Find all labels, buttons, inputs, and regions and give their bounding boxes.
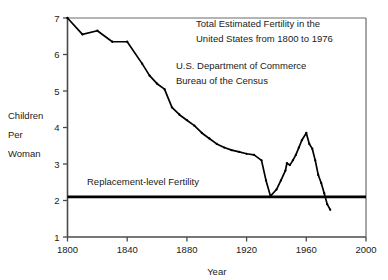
x-tick-label: 2000 xyxy=(355,244,376,255)
chart-canvas: 180018401880192019602000 1234567 Total E… xyxy=(0,0,388,280)
data-point xyxy=(280,179,282,181)
data-point xyxy=(314,159,316,161)
data-point xyxy=(320,182,322,184)
data-point xyxy=(223,146,225,148)
data-point xyxy=(245,153,247,155)
data-point xyxy=(163,88,165,90)
data-point xyxy=(326,203,328,205)
y-tick-label: 1 xyxy=(54,232,59,243)
x-tick-label: 1800 xyxy=(57,244,78,255)
data-point xyxy=(186,119,188,121)
y-tick-label: 4 xyxy=(54,122,59,133)
data-point xyxy=(275,188,277,190)
chart-source-line: U.S. Department of Commerce xyxy=(176,60,306,71)
data-point xyxy=(260,159,262,161)
data-point xyxy=(253,154,255,156)
data-point xyxy=(201,132,203,134)
data-point xyxy=(269,195,271,197)
y-axis-title-line: Woman xyxy=(8,148,41,159)
data-point xyxy=(231,149,233,151)
data-point xyxy=(111,41,113,43)
data-point xyxy=(308,143,310,145)
replacement-level-label: Replacement-level Fertility xyxy=(87,176,199,187)
y-tick-label: 3 xyxy=(54,159,59,170)
chart-source-line: Bureau of the Census xyxy=(176,75,268,86)
data-point xyxy=(298,146,300,148)
data-point xyxy=(305,132,307,134)
x-tick-label: 1920 xyxy=(236,244,257,255)
data-point xyxy=(156,83,158,85)
data-point xyxy=(238,151,240,153)
data-point xyxy=(126,41,128,43)
data-point xyxy=(216,143,218,145)
data-point xyxy=(178,114,180,116)
x-tick-label: 1880 xyxy=(176,244,197,255)
data-point xyxy=(81,33,83,35)
x-axis-title: Year xyxy=(207,266,226,277)
data-point xyxy=(289,164,291,166)
x-tick-labels: 180018401880192019602000 xyxy=(57,244,377,255)
chart-title-line: United States from 1800 to 1976 xyxy=(196,33,333,44)
data-point xyxy=(171,106,173,108)
data-point xyxy=(208,137,210,139)
y-axis-title-line: Children xyxy=(8,110,43,121)
axis-ticks xyxy=(63,18,366,242)
data-point xyxy=(284,169,286,171)
y-tick-label: 6 xyxy=(54,49,59,60)
data-point xyxy=(286,162,288,164)
y-tick-label: 5 xyxy=(54,86,59,97)
data-point xyxy=(301,139,303,141)
y-tick-label: 2 xyxy=(54,195,59,206)
data-point xyxy=(295,154,297,156)
data-point xyxy=(66,17,68,19)
plot-frame xyxy=(68,18,367,237)
fertility-chart-figure: 180018401880192019602000 1234567 Total E… xyxy=(0,0,388,280)
chart-title-line: Total Estimated Fertility in the xyxy=(196,18,320,29)
data-point xyxy=(96,30,98,32)
data-point xyxy=(141,62,143,64)
y-axis-title-line: Per xyxy=(8,129,23,140)
y-tick-labels: 1234567 xyxy=(54,13,59,243)
data-point xyxy=(193,125,195,127)
data-point xyxy=(329,208,331,210)
data-point xyxy=(323,192,325,194)
x-tick-label: 1960 xyxy=(296,244,317,255)
data-point xyxy=(311,148,313,150)
data-point xyxy=(317,174,319,176)
data-point xyxy=(148,75,150,77)
x-tick-label: 1840 xyxy=(117,244,138,255)
data-point xyxy=(265,179,267,181)
data-point xyxy=(292,159,294,161)
y-tick-label: 7 xyxy=(54,13,59,24)
